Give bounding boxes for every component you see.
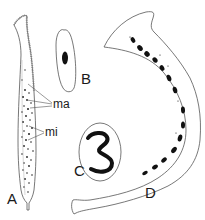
panel-label-b: B [81,70,91,87]
panel-d-cell [72,12,201,214]
panel-a-cell [14,15,36,210]
macronucleus-c [88,133,112,172]
panel-c-cell [79,123,121,181]
label-ma: ma [53,97,70,111]
panel-label-d: D [145,184,156,201]
panel-b-cell [56,30,76,92]
panel-label-c: C [74,162,85,179]
diagram-canvas: ma mi A B C [0,0,205,220]
nucleus-b [62,52,68,65]
beaded-nuclei-d [129,36,185,176]
label-mi: mi [45,125,58,139]
panel-label-a: A [7,190,17,207]
